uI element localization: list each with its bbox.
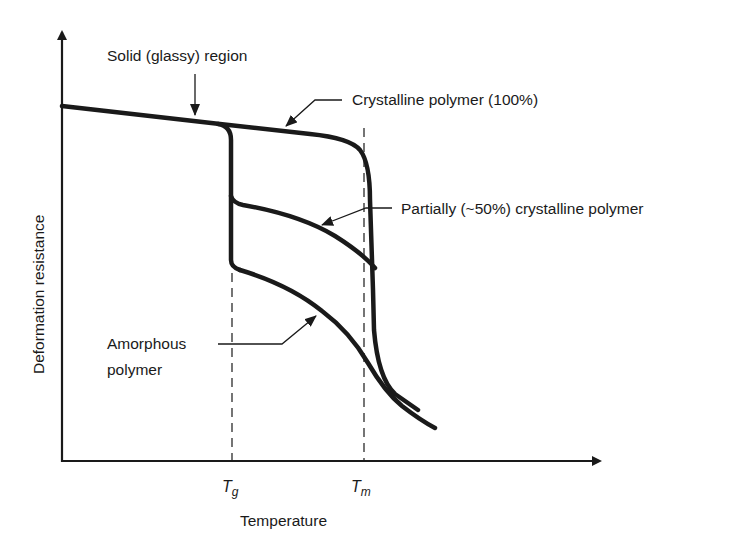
polymer-deformation-diagram: Solid (glassy) region Crystalline polyme… [0, 0, 744, 551]
tm-tick-label: Tm [351, 478, 371, 499]
amorphous-pointer-arrow [218, 316, 316, 344]
x-axis-label: Temperature [240, 513, 327, 529]
tg-main: T [222, 478, 232, 495]
crystalline-pointer-arrow [286, 100, 342, 126]
tg-tick-label: Tg [222, 478, 238, 499]
glassy-region-label: Solid (glassy) region [107, 48, 247, 64]
amorphous-label-line2: polymer [107, 362, 162, 378]
partial-crystalline-label: Partially (~50%) crystalline polymer [401, 201, 643, 217]
partial-crystalline-curve [231, 196, 375, 268]
crystalline-label: Crystalline polymer (100%) [352, 92, 538, 108]
partial-pointer-arrow [322, 208, 392, 225]
amorphous-label-line1: Amorphous [107, 336, 186, 352]
tm-sub: m [361, 485, 371, 499]
tg-sub: g [232, 485, 239, 499]
amorphous-curve [240, 270, 435, 428]
tm-main: T [351, 478, 361, 495]
y-axis-label: Deformation resistance [30, 215, 48, 374]
diagram-canvas [0, 0, 744, 551]
